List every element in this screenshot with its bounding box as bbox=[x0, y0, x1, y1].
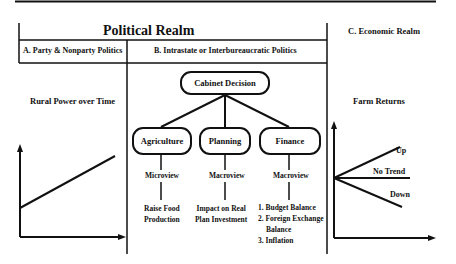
outcome-agriculture: Raise Food Production bbox=[144, 203, 180, 225]
political-realm-title: Political Realm bbox=[103, 23, 194, 39]
node-label: Planning bbox=[209, 136, 242, 146]
left-chart-title: Rural Power over Time bbox=[30, 96, 115, 106]
outcome-line: 2. Foreign Exchange bbox=[258, 213, 324, 224]
node-planning: Planning bbox=[199, 127, 251, 155]
outcome-line: 3. Inflation bbox=[258, 235, 324, 246]
label-up: Up bbox=[396, 146, 406, 155]
view-finance: Macroview bbox=[273, 171, 309, 180]
outcome-line: 1. Budget Balance bbox=[258, 202, 324, 213]
view-planning: Macroview bbox=[209, 171, 245, 180]
outcome-line: Plan Investment bbox=[195, 214, 247, 225]
outcome-line: Impact on Real bbox=[195, 203, 247, 214]
section-c-label: C. Economic Realm bbox=[348, 26, 420, 36]
node-label: Finance bbox=[276, 136, 305, 146]
node-label: Agriculture bbox=[141, 136, 183, 146]
label-no-trend: No Trend bbox=[373, 167, 405, 176]
outcome-finance: 1. Budget Balance 2. Foreign Exchange Ba… bbox=[258, 202, 324, 246]
section-b-label: B. Intrastate or Interbureaucratic Polit… bbox=[154, 46, 297, 55]
outcome-line: Production bbox=[144, 214, 180, 225]
node-agriculture: Agriculture bbox=[132, 127, 192, 155]
outcome-line: Raise Food bbox=[144, 203, 180, 214]
right-chart-title: Farm Returns bbox=[353, 96, 405, 106]
node-cabinet-decision: Cabinet Decision bbox=[180, 71, 270, 95]
outcome-planning: Impact on Real Plan Investment bbox=[195, 203, 247, 225]
outcome-line: Balance bbox=[258, 224, 324, 235]
node-label: Cabinet Decision bbox=[194, 78, 256, 88]
node-finance: Finance bbox=[259, 127, 321, 155]
section-a-label: A. Party & Nonparty Politics bbox=[23, 46, 122, 55]
view-agriculture: Microview bbox=[145, 171, 179, 180]
label-down: Down bbox=[390, 190, 410, 199]
